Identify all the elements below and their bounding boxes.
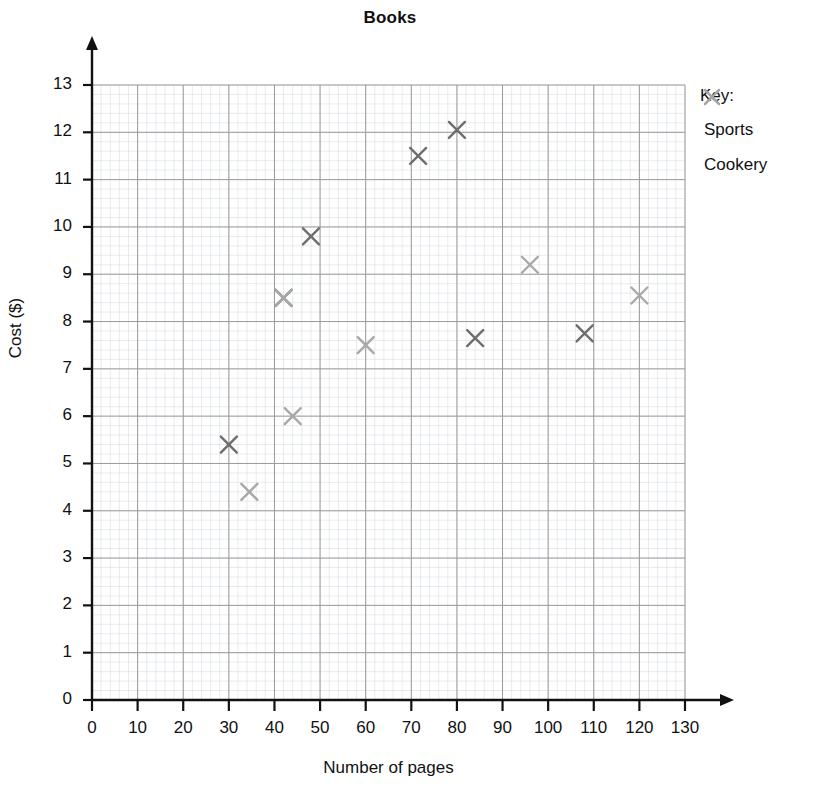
y-tick-label: 13 [26,74,72,94]
data-point [410,148,426,164]
y-tick-label: 5 [26,452,72,472]
y-tick-label: 10 [26,216,72,236]
y-tick-label: 12 [26,121,72,141]
x-tick-label: 20 [160,718,206,738]
axes [83,36,734,711]
y-tick-label: 7 [26,358,72,378]
grid-minor [92,85,685,700]
x-tick-label: 90 [480,718,526,738]
legend-label: Sports [704,120,753,140]
series-sports [221,122,593,453]
x-tick-label: 110 [571,718,617,738]
y-tick-label: 0 [26,689,72,709]
scatter-chart: Books Cost ($) Number of pages 012345678… [0,0,834,795]
x-tick-label: 120 [616,718,662,738]
grid-major [92,85,685,700]
x-tick-label: 10 [115,718,161,738]
x-tick-label: 100 [525,718,571,738]
x-tick-label: 60 [343,718,389,738]
y-tick-label: 3 [26,547,72,567]
x-tick-label: 30 [206,718,252,738]
x-tick-label: 50 [297,718,343,738]
x-tick-label: 80 [434,718,480,738]
legend: Key: SportsCookery [700,86,834,189]
y-tick-label: 1 [26,642,72,662]
y-tick-label: 4 [26,500,72,520]
x-tick-label: 0 [69,718,115,738]
y-tick-label: 2 [26,594,72,614]
y-tick-label: 9 [26,263,72,283]
legend-item-cookery[interactable]: Cookery [700,154,834,176]
y-tick-label: 11 [26,169,72,189]
legend-label: Cookery [704,155,767,175]
y-tick-label: 6 [26,405,72,425]
legend-item-sports[interactable]: Sports [700,119,834,141]
x-tick-label: 40 [251,718,297,738]
legend-x-icon [700,86,726,108]
x-tick-label: 70 [388,718,434,738]
x-tick-label: 130 [662,718,708,738]
y-tick-label: 8 [26,311,72,331]
